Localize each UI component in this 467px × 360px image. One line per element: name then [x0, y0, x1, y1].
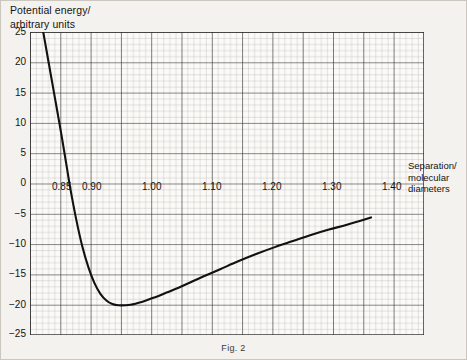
x-tick-label: 1.30: [322, 181, 341, 192]
y-tick-label: −25: [0, 328, 26, 339]
y-tick-label: −10: [0, 238, 26, 249]
x-tick-label: 1.40: [382, 181, 401, 192]
y-tick-label: −20: [0, 299, 26, 310]
x-axis-title: Separation/ molecular diameters: [408, 160, 457, 195]
x-tick-label: 1.10: [202, 181, 221, 192]
y-tick-label: −5: [0, 208, 26, 219]
x-tick-label: 1.00: [142, 181, 161, 192]
y-tick-label: 0: [0, 177, 26, 188]
y-tick-label: 10: [0, 117, 26, 128]
x-tick-label: 0.85: [52, 181, 71, 192]
y-tick-label: 15: [0, 87, 26, 98]
x-tick-label: 1.20: [262, 181, 281, 192]
y-tick-label: 5: [0, 147, 26, 158]
figure-caption: Fig. 2: [0, 343, 467, 353]
y-tick-label: −15: [0, 268, 26, 279]
x-tick-label: 0.90: [82, 181, 101, 192]
y-tick-label: 20: [0, 56, 26, 67]
y-tick-label: 25: [0, 26, 26, 37]
figure-page: Potential energy/ arbitrary units 252015…: [0, 0, 467, 360]
